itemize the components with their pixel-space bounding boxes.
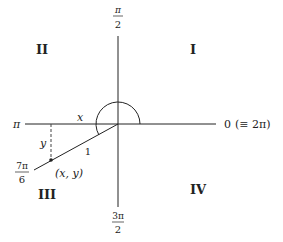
quadrant-label-2: II [36, 42, 48, 57]
label-3pi-over-2: 3π 2 [112, 211, 124, 235]
svg-text:6: 6 [19, 174, 25, 185]
svg-text:2: 2 [115, 19, 121, 30]
radius-line [34, 124, 118, 170]
svg-text:2: 2 [115, 224, 121, 235]
svg-text:7π: 7π [16, 161, 28, 171]
label-x-segment: x [77, 111, 84, 124]
point-marker [49, 158, 53, 162]
quadrant-label-3: III [38, 187, 56, 202]
svg-text:3π: 3π [112, 211, 124, 221]
label-zero: 0 (≡ 2π) [224, 118, 271, 131]
quadrant-label-4: IV [190, 182, 207, 197]
svg-text:0: 0 [224, 118, 231, 131]
label-point-xy: (x, y) [55, 167, 83, 180]
label-pi-over-2: π 2 [113, 5, 123, 30]
label-radius: 1 [85, 146, 91, 157]
label-7pi-over-6: 7π 6 [15, 161, 29, 185]
unit-circle-diagram: π 2 π 0 (≡ 2π) 3π 2 7π 6 II I III IV x y… [0, 0, 283, 242]
quadrant-label-1: I [190, 42, 196, 57]
label-y-segment: y [39, 137, 47, 150]
svg-text:(≡ 2π): (≡ 2π) [235, 118, 271, 131]
svg-text:π: π [114, 5, 122, 15]
label-pi: π [12, 118, 21, 131]
